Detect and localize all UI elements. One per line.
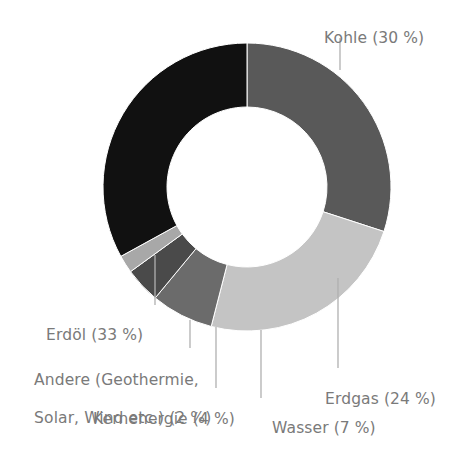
slice-label-andere-line2: Solar, Wind etc.) (2 %) (34, 409, 211, 427)
slice-label-kohle: Kohle (30 %) (304, 10, 424, 67)
slice-label-wasser: Wasser (7 %) (252, 400, 376, 457)
slice-label-kohle-text: Kohle (30 %) (324, 29, 424, 47)
donut-slice-erd-l[interactable] (103, 43, 247, 256)
donut-slices-group (103, 43, 391, 331)
slice-label-andere-line1: Andere (Geothermie, (34, 371, 199, 389)
slice-label-erdoel-text: Erdöl (33 %) (46, 326, 143, 344)
slice-label-andere: Andere (Geothermie, Solar, Wind etc.) (2… (14, 352, 211, 447)
donut-slice-kohle[interactable] (247, 43, 391, 232)
slice-label-wasser-text: Wasser (7 %) (272, 419, 376, 437)
donut-slice-erdgas[interactable] (211, 212, 384, 331)
slice-label-erdoel: Erdöl (33 %) (26, 307, 143, 364)
donut-chart: Kohle (30 %) Erdgas (24 %) Wasser (7 %) … (0, 0, 458, 468)
